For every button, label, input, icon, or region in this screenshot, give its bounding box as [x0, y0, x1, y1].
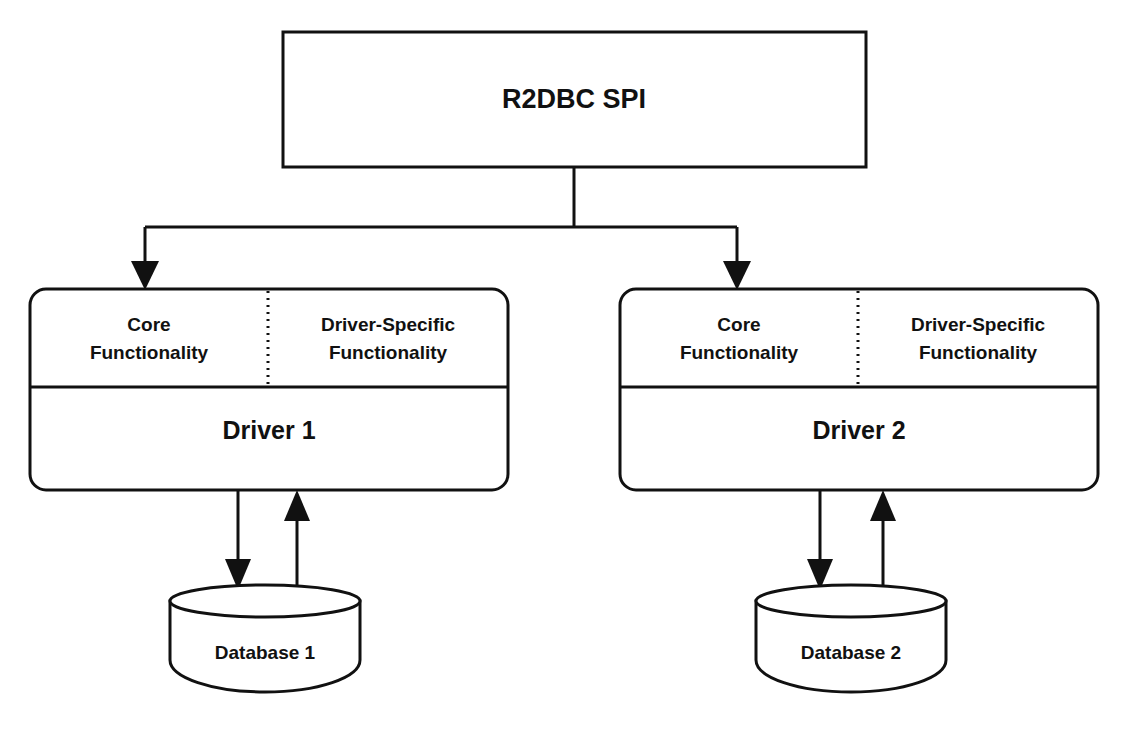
spi-to-driver2-arrowhead [723, 261, 751, 290]
driver1-database1-connector [225, 490, 310, 600]
driver-2-specific-label-line2: Functionality [919, 342, 1038, 363]
spi-node[interactable]: R2DBC SPI [283, 32, 866, 167]
diagram-canvas: R2DBC SPI Core Functionality Driver-Spec… [0, 0, 1121, 732]
driver-2-name-label: Driver 2 [812, 416, 905, 444]
database-2-top-ellipse [756, 585, 946, 617]
database-1-label: Database 1 [215, 642, 316, 663]
driver-2-specific-label-line1: Driver-Specific [911, 314, 1046, 335]
database1-to-driver1-arrowhead [284, 490, 310, 521]
architecture-diagram: R2DBC SPI Core Functionality Driver-Spec… [0, 0, 1121, 732]
spi-to-drivers-connector [131, 167, 751, 290]
database-2-node[interactable]: Database 2 [756, 585, 946, 692]
spi-label: R2DBC SPI [502, 84, 646, 114]
database-1-top-ellipse [170, 585, 360, 617]
driver-1-node[interactable]: Core Functionality Driver-Specific Funct… [30, 289, 508, 490]
driver2-database2-connector [807, 490, 896, 600]
driver-2-core-label-line2: Functionality [680, 342, 799, 363]
database2-to-driver2-arrowhead [870, 490, 896, 521]
driver-2-node[interactable]: Core Functionality Driver-Specific Funct… [620, 289, 1098, 490]
driver-1-core-label-line2: Functionality [90, 342, 209, 363]
driver-2-core-label-line1: Core [717, 314, 760, 335]
driver-1-core-label-line1: Core [127, 314, 170, 335]
spi-to-driver1-arrowhead [131, 261, 159, 290]
database-2-label: Database 2 [801, 642, 901, 663]
driver-1-specific-label-line2: Functionality [329, 342, 448, 363]
database-1-node[interactable]: Database 1 [170, 585, 360, 692]
driver-1-specific-label-line1: Driver-Specific [321, 314, 456, 335]
driver-1-name-label: Driver 1 [222, 416, 315, 444]
